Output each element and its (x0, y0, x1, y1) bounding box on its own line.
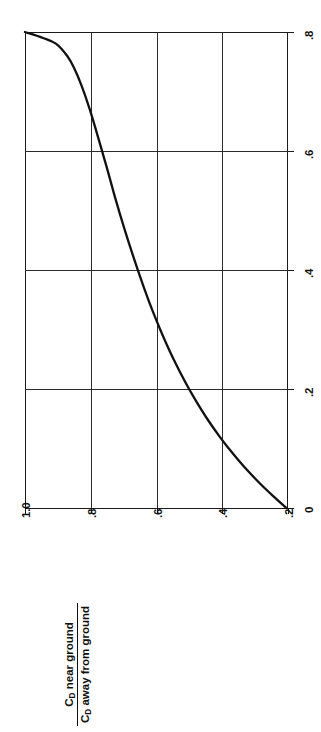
tick-label-height-0: 0 (303, 507, 315, 513)
tick-label-value-0.8: .8 (86, 509, 98, 518)
axis-title-denominator: CD away from ground (78, 603, 92, 726)
denominator-symbol: C (79, 715, 91, 723)
numerator-symbol: C (63, 698, 75, 706)
tick-label-value-0.6: .6 (152, 509, 164, 518)
tick-label-height-0.4: .4 (303, 269, 315, 278)
tick-label-height-0.2: .2 (303, 388, 315, 397)
axis-title-fraction: CD near ground CD away from ground (63, 603, 92, 726)
tick-label-value-1.0: 1.0 (20, 503, 32, 518)
tick-label-value-0.2: .2 (283, 509, 295, 518)
tick-height-0.2 (288, 389, 294, 390)
numerator-text: near ground (63, 622, 75, 692)
numerator-subscript: D (68, 692, 77, 698)
tick-label-value-0.4: .4 (217, 509, 229, 518)
axis-title-numerator: CD near ground (63, 603, 78, 726)
denominator-subscript: D (84, 709, 93, 715)
plot-area (25, 32, 288, 508)
axis-title: CD near ground CD away from ground (63, 603, 93, 726)
tick-height-0.8 (288, 32, 294, 33)
tick-height-0.6 (288, 151, 294, 152)
tick-height-0.4 (288, 270, 294, 271)
tick-label-height-0.6: .6 (303, 150, 315, 159)
denominator-text: away from ground (79, 606, 91, 709)
data-curve (25, 32, 288, 508)
tick-label-height-0.8: .8 (303, 31, 315, 40)
figure-root: 1.0 .8 .6 .4 .2 .8 .6 .4 .2 0 CD near gr… (0, 0, 321, 732)
